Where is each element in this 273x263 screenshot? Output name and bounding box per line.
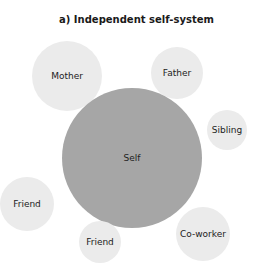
- node-sibling: Sibling: [207, 110, 247, 150]
- node-label: Sibling: [212, 125, 242, 135]
- node-friend-1: Friend: [0, 177, 54, 231]
- node-label: Mother: [51, 71, 83, 81]
- node-label: Self: [124, 153, 141, 163]
- diagram-title: a) Independent self-system: [0, 14, 273, 25]
- node-friend-2: Friend: [79, 221, 121, 263]
- node-self: Self: [62, 88, 202, 228]
- node-label: Co-worker: [180, 229, 226, 239]
- node-coworker: Co-worker: [176, 207, 230, 261]
- node-label: Father: [163, 68, 191, 78]
- node-father: Father: [151, 47, 203, 99]
- node-label: Friend: [13, 199, 41, 209]
- node-label: Friend: [86, 237, 114, 247]
